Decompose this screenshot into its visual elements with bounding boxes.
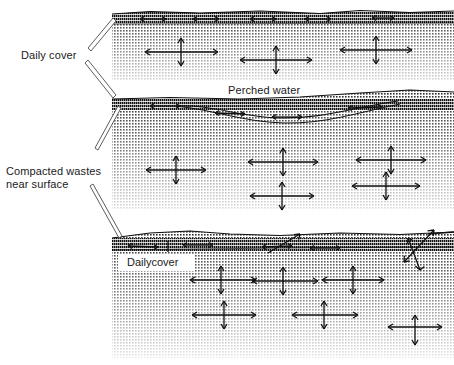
label-daily-cover: Daily cover	[21, 49, 77, 62]
bottom-panel	[112, 228, 454, 360]
middle-daily-cover-band	[112, 99, 454, 110]
top-panel	[112, 10, 454, 80]
label-dailycover: Dailycover	[127, 256, 178, 268]
landfill-cross-section-figure: Daily cover Compacted wastes near surfac…	[0, 0, 454, 365]
label-compacted-wastes: Compacted wastes near surface	[6, 165, 101, 192]
leader-daily-cover-to-middle	[85, 60, 116, 98]
leader-daily-cover-to-top	[88, 18, 116, 51]
dailycover-label-box: Dailycover	[118, 254, 194, 271]
label-perched-water: Perched water	[228, 84, 300, 97]
middle-panel	[112, 90, 454, 212]
